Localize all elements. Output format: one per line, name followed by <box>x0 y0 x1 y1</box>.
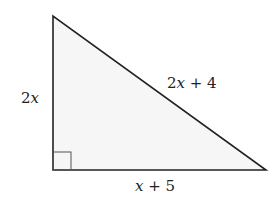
label-hypotenuse: 2x + 4 <box>167 74 217 92</box>
triangle-shape <box>53 16 266 170</box>
label-vertical-leg: 2x <box>21 89 40 107</box>
label-horizontal-leg: x + 5 <box>135 177 175 195</box>
triangle-diagram: 2x 2x + 4 x + 5 <box>0 0 273 204</box>
